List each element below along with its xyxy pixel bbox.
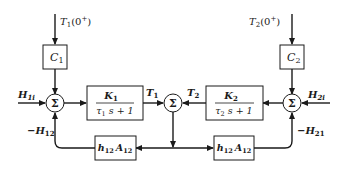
label-h2i: H2i — [307, 89, 325, 102]
label-minus-h12: −H12 — [27, 125, 55, 138]
label-t1: T1 — [146, 87, 158, 100]
sigma-right: Σ — [288, 97, 296, 110]
sigma-center: Σ — [169, 97, 177, 110]
label-h1i: H1i — [17, 89, 35, 102]
sigma-left: Σ — [51, 97, 59, 110]
label-t2-initial: T2(0+) — [249, 15, 280, 29]
label-t2: T2 — [187, 87, 199, 100]
label-minus-h21: −H21 — [297, 125, 325, 138]
block-diagram: Σ Σ Σ T1(0+) T2(0+) C1 C2 H1i H2i −H12 −… — [0, 0, 348, 172]
label-t1-initial: T1(0+) — [60, 15, 91, 29]
